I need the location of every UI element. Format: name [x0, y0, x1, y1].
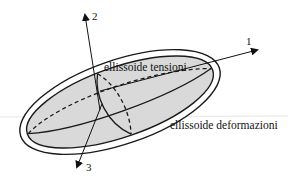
ellipsoid-diagram: 1 2 3 ellissoide tensioni ellissoide def…: [0, 0, 288, 182]
stress-ellipsoid-label: ellissoide tensioni: [104, 61, 187, 73]
axis-3-label: 3: [86, 161, 92, 173]
axis-2-label: 2: [92, 10, 98, 22]
axis-1-label: 1: [246, 35, 252, 47]
strain-ellipsoid-label: ellissoide deformazioni: [170, 119, 278, 131]
